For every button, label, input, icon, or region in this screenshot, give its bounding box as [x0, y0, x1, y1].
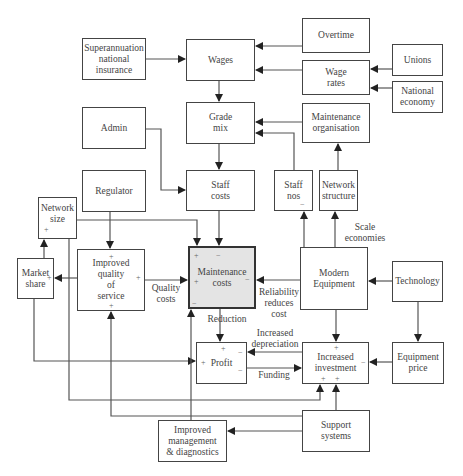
node-label: Equipment price [397, 352, 439, 374]
node-label: Maintenance organisation [311, 112, 360, 134]
plus-sign: + [109, 253, 114, 261]
node-market-share: Market share + [17, 258, 54, 299]
plus-sign: + [201, 359, 206, 367]
minus-sign: − [238, 349, 243, 357]
node-improved-quality: Improved quality of service + + + [77, 249, 145, 311]
edge-label-increased-depreciation: Increased depreciation [249, 328, 301, 350]
minus-sign: − [238, 367, 243, 375]
minus-sign: − [216, 252, 221, 260]
node-label: Improved management & diagnostics [166, 425, 219, 458]
node-label: Maintenance costs [197, 267, 246, 289]
node-label: Technology [395, 276, 440, 287]
minus-sign: − [300, 201, 305, 209]
node-maintenance-organisation: Maintenance organisation [302, 103, 370, 143]
node-superannuation: Superannuation national insurance [82, 38, 146, 80]
node-profit: Profit + + − − [196, 342, 247, 384]
plus-sign: + [335, 375, 340, 383]
node-label: Modern Equipment [313, 268, 355, 290]
node-label: Staff nos [284, 180, 302, 202]
edge-label-scale-economies: Scale economies [343, 222, 387, 244]
node-label: Support systems [321, 420, 351, 442]
node-staff-nos: Staff nos − [274, 170, 313, 211]
node-label: Overtime [318, 30, 354, 41]
edge-label-reduction: Reduction [202, 314, 252, 325]
node-support-systems: Support systems [302, 410, 370, 452]
plus-sign: + [194, 278, 199, 286]
node-grade-mix: Grade mix [186, 102, 255, 144]
plus-sign: + [334, 344, 339, 352]
node-wage-rates: Wage rates [302, 60, 370, 95]
node-regulator: Regulator [82, 170, 146, 212]
node-increased-investment: Increased investment + − + + [302, 342, 369, 384]
node-label: Regulator [95, 186, 132, 197]
plus-sign: + [321, 375, 326, 383]
node-network-size: Network size + [38, 197, 77, 239]
node-staff-costs: Staff costs [186, 170, 255, 211]
minus-sign: − [361, 359, 366, 367]
node-label: Grade mix [209, 112, 232, 134]
minus-sign: − [192, 300, 197, 308]
node-maintenance-costs: Maintenance costs + − + − − [188, 246, 256, 309]
plus-sign: + [109, 302, 114, 310]
edge-label-reliability-reduces-cost: Reliability reduces cost [257, 287, 301, 320]
plus-sign: + [136, 274, 141, 282]
plus-sign: + [221, 345, 226, 353]
node-wages: Wages [186, 39, 255, 81]
node-improved-management: Improved management & diagnostics [158, 420, 227, 462]
node-label: Superannuation national insurance [84, 43, 144, 76]
node-label: Staff costs [211, 180, 230, 202]
node-technology: Technology [392, 261, 443, 302]
node-label: Market share [22, 268, 49, 290]
node-label: Admin [101, 123, 127, 134]
node-label: Increased investment [315, 352, 357, 374]
edge-label-funding: Funding [254, 370, 294, 381]
node-label: Wage rates [325, 67, 346, 89]
node-label: National economy [400, 86, 435, 108]
node-label: Network size [41, 203, 74, 225]
maintenance-cost-influence-diagram: Superannuation national insurance Wages … [0, 0, 463, 476]
node-equipment-price: Equipment price [392, 342, 444, 384]
plus-sign: + [194, 252, 199, 260]
node-label: Network structure [322, 180, 355, 202]
node-label: Wages [208, 55, 233, 66]
node-overtime: Overtime [302, 18, 370, 53]
edge-label-quality-costs: Quality costs [146, 283, 186, 305]
node-network-structure: Network structure [319, 170, 358, 211]
node-label: Profit [211, 358, 233, 369]
plus-sign: + [47, 274, 52, 282]
node-admin: Admin [82, 107, 146, 149]
node-national-economy: National economy [392, 81, 443, 113]
node-label: Improved quality of service [93, 258, 130, 302]
minus-sign: − [245, 276, 250, 284]
node-label: Unions [404, 55, 431, 66]
node-unions: Unions [392, 44, 443, 76]
node-modern-equipment: Modern Equipment [300, 247, 368, 310]
plus-sign: + [44, 226, 49, 234]
